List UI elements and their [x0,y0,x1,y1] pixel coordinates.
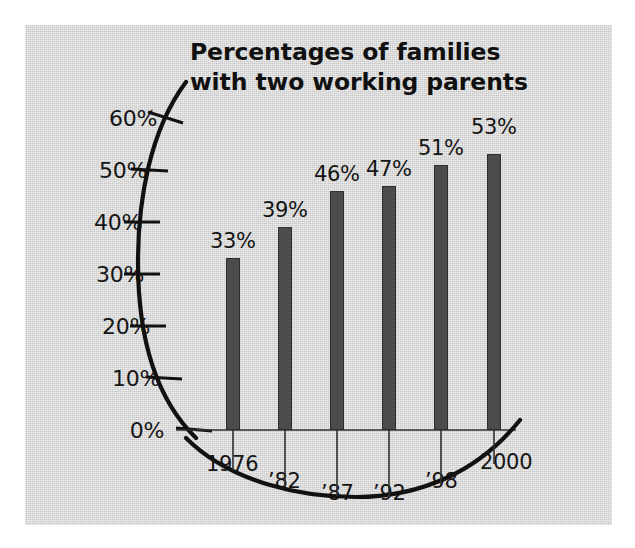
bar-2000 [487,154,501,430]
ytick-label-50: 50% [99,158,147,183]
xtick-label-98: ’98 [425,469,458,493]
ytick-label-20: 20% [102,314,150,339]
ytick-label-0: 0% [130,418,164,443]
xtick-label-92: ’92 [373,481,406,505]
bar-value-1976: 33% [210,229,256,253]
bar-value-2000: 53% [471,115,517,139]
chart-figure: Percentages of families with two working… [0,0,635,548]
xtick-label-2000: 2000 [480,450,532,474]
bar-1998 [434,165,448,430]
bar-1987 [330,191,344,430]
chart-title: Percentages of families with two working… [190,38,530,97]
ytick-label-60: 60% [109,106,157,131]
chart-title-line-2: with two working parents [190,68,530,98]
ytick-label-10: 10% [112,366,160,391]
bar-value-1998: 51% [418,136,464,160]
ytick-label-40: 40% [94,210,142,235]
xtick-label-1976: 1976 [206,452,258,476]
xtick-label-82: ’82 [268,469,301,493]
chart-title-line-1: Percentages of families [190,38,530,68]
chart-panel: Percentages of families with two working… [25,25,612,525]
bar-1976 [226,258,240,430]
ytick-label-30: 30% [96,262,144,287]
bar-value-1987: 46% [314,162,360,186]
bar-1992 [382,186,396,430]
xtick-label-87: ’87 [321,481,354,505]
bar-1982 [278,227,292,430]
bar-value-1992: 47% [366,157,412,181]
bar-value-1982: 39% [262,198,308,222]
